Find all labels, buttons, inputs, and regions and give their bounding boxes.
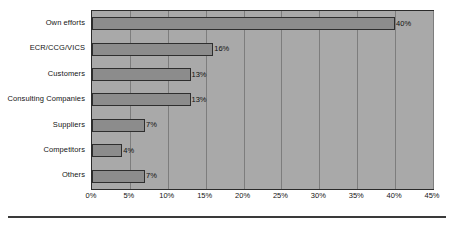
bar: 7%	[92, 119, 145, 132]
x-tick-label: 20%	[235, 192, 250, 200]
bar-row: 13%	[92, 62, 433, 87]
bar-row: 7%	[92, 164, 433, 189]
bar-value-label: 7%	[146, 172, 157, 180]
category-label: Suppliers	[0, 112, 89, 137]
bar-row: 7%	[92, 113, 433, 138]
bar-value-label: 13%	[192, 96, 207, 104]
bar-value-label: 40%	[396, 20, 411, 28]
value-axis: 0%5%10%15%20%25%30%35%40%45%	[91, 192, 434, 204]
bar: 40%	[92, 17, 395, 30]
plot-area: 40% 16% 13% 13% 7%	[91, 10, 434, 190]
gridline	[433, 11, 434, 189]
bar: 16%	[92, 43, 213, 56]
category-label: Own efforts	[0, 10, 89, 35]
bar: 4%	[92, 144, 122, 157]
bar-chart-figure: Own efforts ECR/CCG/VICS Customers Consu…	[0, 0, 454, 231]
x-tick-label: 0%	[86, 192, 97, 200]
x-tick-label: 40%	[387, 192, 402, 200]
bar-value-label: 7%	[146, 122, 157, 130]
x-tick-label: 25%	[273, 192, 288, 200]
category-label: Customers	[0, 61, 89, 86]
x-tick-label: 30%	[311, 192, 326, 200]
x-tick-label: 45%	[424, 192, 439, 200]
bar-row: 40%	[92, 11, 433, 36]
category-label: ECR/CCG/VICS	[0, 35, 89, 60]
bottom-divider	[8, 216, 446, 218]
category-axis: Own efforts ECR/CCG/VICS Customers Consu…	[0, 10, 89, 188]
bar-row: 13%	[92, 87, 433, 112]
x-tick-label: 35%	[349, 192, 364, 200]
x-tick-label: 15%	[197, 192, 212, 200]
bar-row: 16%	[92, 36, 433, 61]
bars-layer: 40% 16% 13% 13% 7%	[92, 11, 433, 189]
category-label: Consulting Companies	[0, 86, 89, 111]
bar: 13%	[92, 93, 191, 106]
bar-value-label: 16%	[214, 45, 229, 53]
category-label: Others	[0, 163, 89, 188]
bar: 13%	[92, 68, 191, 81]
bar-row: 4%	[92, 138, 433, 163]
x-tick-label: 10%	[159, 192, 174, 200]
bar-value-label: 13%	[192, 71, 207, 79]
category-label: Competitors	[0, 137, 89, 162]
x-tick-label: 5%	[123, 192, 134, 200]
bar-value-label: 4%	[123, 147, 134, 155]
bar: 7%	[92, 170, 145, 183]
